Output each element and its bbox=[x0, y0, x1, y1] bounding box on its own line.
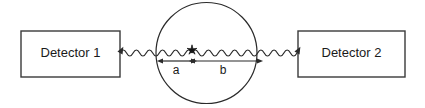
diagram-canvas: Detector 1 Detector 2 a b bbox=[0, 0, 425, 108]
detector-1-label: Detector 1 bbox=[41, 45, 101, 60]
dimension-b-label: b bbox=[220, 63, 227, 77]
source-region-circle bbox=[156, 3, 257, 104]
dimension-a-label: a bbox=[173, 63, 180, 77]
right-photon-wave bbox=[192, 50, 297, 56]
schematic-svg: Detector 1 Detector 2 a b bbox=[0, 0, 425, 108]
detector-2-label: Detector 2 bbox=[322, 45, 382, 60]
